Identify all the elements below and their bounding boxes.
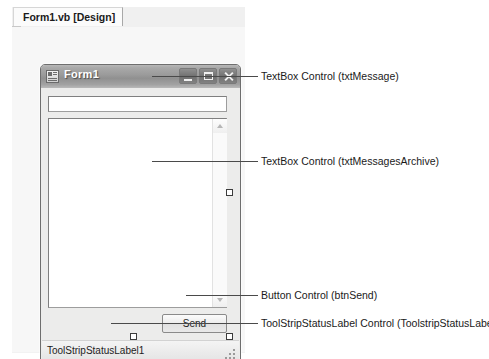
textbox-txtmessage[interactable] xyxy=(48,96,227,112)
scrollbar-track[interactable] xyxy=(213,133,227,293)
callout-txtmessagesarchive: TextBox Control (txtMessagesArchive) xyxy=(261,155,439,167)
form-window-icon xyxy=(46,70,59,83)
callout-leader-line xyxy=(152,76,258,77)
resize-handle-right[interactable] xyxy=(226,189,233,196)
status-label-toolstripstatuslabel1: ToolStripStatusLabel1 xyxy=(47,345,144,356)
status-strip[interactable]: ToolStripStatusLabel1 xyxy=(42,340,239,359)
resize-grip-icon xyxy=(225,349,236,359)
callout-toolstripstatuslabel: ToolStripStatusLabel Control (ToolstripS… xyxy=(261,317,489,329)
callout-txtmessage: TextBox Control (txtMessage) xyxy=(261,70,399,82)
form-client-area: Send ToolStripStatusLabel1 xyxy=(41,88,240,359)
callout-btnsend: Button Control (btnSend) xyxy=(261,289,377,301)
tab-form1-design[interactable]: Form1.vb [Design] xyxy=(13,7,123,26)
form-title: Form1 xyxy=(64,68,99,80)
vertical-scrollbar[interactable] xyxy=(212,119,226,307)
resize-handle-bottom[interactable] xyxy=(130,333,137,340)
form-titlebar[interactable]: Form1 xyxy=(41,65,240,89)
callout-leader-line xyxy=(111,323,258,324)
callout-leader-line xyxy=(152,161,258,162)
scroll-up-icon[interactable] xyxy=(213,119,227,133)
textbox-txtmessagesarchive[interactable] xyxy=(48,118,227,308)
resize-handle-corner[interactable] xyxy=(226,333,233,340)
callout-leader-line xyxy=(186,295,258,296)
form-window[interactable]: Form1 Send ToolStripStatusLabel1 xyxy=(40,64,241,359)
